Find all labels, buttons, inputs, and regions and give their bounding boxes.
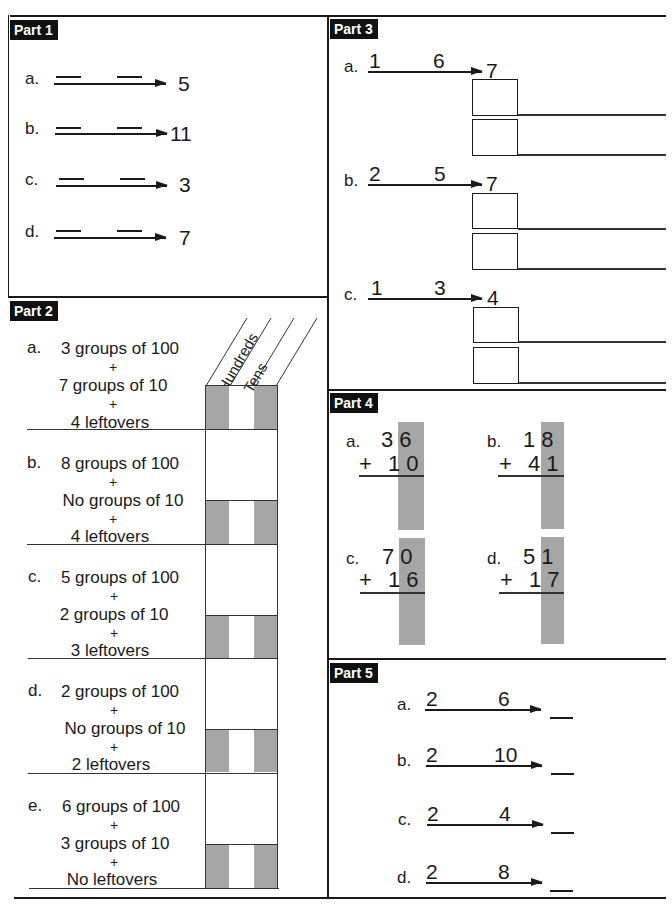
ones-text: No leftovers xyxy=(32,870,192,889)
sum-line[interactable] xyxy=(498,475,564,477)
hundreds-text: 3 groups of 100 xyxy=(40,339,200,358)
tens-text: 7 groups of 10 xyxy=(33,376,193,395)
arrow-icon xyxy=(55,133,167,135)
hundreds-answer-cell[interactable] xyxy=(206,845,229,888)
hundreds-answer-cell[interactable] xyxy=(206,501,229,544)
plus-sign: + xyxy=(34,704,194,716)
item-label: b. xyxy=(25,120,39,138)
part1-left-border xyxy=(8,15,9,298)
sum-line[interactable] xyxy=(499,592,564,594)
answer-box-2[interactable] xyxy=(473,347,519,384)
answer-line-2[interactable] xyxy=(519,382,666,384)
answer-box-2[interactable] xyxy=(472,233,518,270)
row-separator xyxy=(28,658,278,659)
left-column-right-border xyxy=(327,15,329,899)
ones-answer-cell[interactable] xyxy=(254,501,277,544)
plus-sign: + xyxy=(34,856,194,868)
hundreds-answer-cell[interactable] xyxy=(206,730,229,772)
part1-bottom-border xyxy=(8,296,328,298)
bottom-addend: + 17 xyxy=(500,568,565,592)
part1-tag: Part 1 xyxy=(10,20,58,40)
hundreds-answer-cell[interactable] xyxy=(206,386,229,429)
plus-sign: + xyxy=(34,741,194,753)
sum-line[interactable] xyxy=(359,475,424,477)
plus-sign: + xyxy=(34,590,194,602)
tens-text: 3 groups of 10 xyxy=(35,834,195,853)
row-separator xyxy=(27,429,278,430)
arrow-icon xyxy=(425,709,541,711)
tens-text: No groups of 10 xyxy=(45,719,205,738)
part3-bottom-border xyxy=(328,389,666,391)
arrow-icon xyxy=(54,237,166,239)
result-value: 5 xyxy=(178,73,190,95)
top-border xyxy=(10,15,328,17)
second-number: 8 xyxy=(498,861,510,883)
top-border-right xyxy=(328,15,666,17)
answer-box-1[interactable] xyxy=(472,79,518,116)
answer-box-2[interactable] xyxy=(472,119,518,156)
ones-answer-cell[interactable] xyxy=(254,845,277,888)
answer-blank[interactable] xyxy=(550,890,573,892)
ones-text: 2 leftovers xyxy=(31,755,191,774)
row-separator xyxy=(29,888,279,889)
result-value: 11 xyxy=(170,123,192,145)
answer-blank-1[interactable] xyxy=(59,178,84,180)
hundreds-answer-cell[interactable] xyxy=(206,616,229,658)
second-number: 4 xyxy=(499,803,511,825)
answer-line-1[interactable] xyxy=(519,341,666,343)
bottom-addend: + 16 xyxy=(359,568,424,592)
plus-sign: + xyxy=(33,361,193,373)
arrow-icon xyxy=(54,83,166,85)
answer-blank-2[interactable] xyxy=(117,76,142,78)
plus-sign: + xyxy=(33,398,193,410)
tens-text: No groups of 10 xyxy=(43,491,203,510)
answer-blank-1[interactable] xyxy=(56,230,81,232)
part3-tag: Part 3 xyxy=(330,19,378,39)
row-separator xyxy=(27,544,278,545)
answer-blank-1[interactable] xyxy=(56,127,81,129)
arrow-icon xyxy=(368,71,482,73)
ones-answer-cell[interactable] xyxy=(254,386,277,429)
item-label: c. xyxy=(25,171,38,189)
ones-answer-cell[interactable] xyxy=(254,616,277,658)
answer-line-1[interactable] xyxy=(518,228,666,230)
answer-box-1[interactable] xyxy=(473,307,519,343)
arrow-icon xyxy=(426,882,542,884)
item-label: d. xyxy=(487,550,501,568)
total-number: 7 xyxy=(486,173,498,195)
answer-blank[interactable] xyxy=(551,832,574,834)
answer-blank[interactable] xyxy=(550,717,573,719)
answer-blank-2[interactable] xyxy=(120,178,145,180)
answer-blank-1[interactable] xyxy=(56,76,81,78)
answer-box-1[interactable] xyxy=(472,193,518,229)
hundreds-text: 2 groups of 100 xyxy=(40,682,200,701)
answer-blank-2[interactable] xyxy=(117,230,142,232)
item-label: c. xyxy=(344,286,357,304)
answer-line-2[interactable] xyxy=(518,154,666,156)
item-label: a. xyxy=(344,58,358,76)
part4-bottom-border xyxy=(328,658,666,660)
answer-blank[interactable] xyxy=(551,773,574,775)
answer-line-1[interactable] xyxy=(518,114,666,116)
first-number: 2 xyxy=(426,861,438,883)
sum-line[interactable] xyxy=(360,592,425,594)
item-label: d. xyxy=(397,869,411,887)
arrow-icon xyxy=(56,185,167,187)
item-label: d. xyxy=(25,223,39,241)
part4-tag: Part 4 xyxy=(330,393,378,413)
first-number: 2 xyxy=(369,163,381,185)
second-number: 10 xyxy=(494,744,517,766)
item-label: c. xyxy=(346,550,359,568)
hundreds-text: 8 groups of 100 xyxy=(40,454,200,473)
hundreds-text: 6 groups of 100 xyxy=(41,797,201,816)
second-number: 3 xyxy=(434,277,446,299)
bottom-addend: + 41 xyxy=(499,452,564,476)
answer-line-2[interactable] xyxy=(518,268,666,270)
first-number: 2 xyxy=(426,744,438,766)
part5-tag: Part 5 xyxy=(330,663,378,683)
answer-blank-2[interactable] xyxy=(117,127,142,129)
arrow-icon xyxy=(427,824,543,826)
second-number: 6 xyxy=(433,50,445,72)
ones-answer-cell[interactable] xyxy=(254,730,277,772)
item-label: a. xyxy=(397,696,411,714)
